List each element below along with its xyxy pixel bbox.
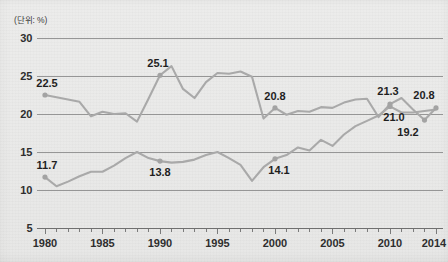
point-label-20-8-2014: 20.8: [413, 89, 434, 101]
line-chart-plot: 30252015105 1980198519901995200020052010…: [0, 0, 448, 262]
point-label-11-7-1980: 11.7: [37, 159, 58, 171]
x-tick-label-1990: 1990: [148, 237, 172, 249]
point-label-20-8-2000: 20.8: [264, 90, 285, 102]
point-label-13-8-1990: 13.8: [149, 166, 170, 178]
x-tick-label-1995: 1995: [205, 237, 229, 249]
x-tick-label-2005: 2005: [320, 237, 344, 249]
x-axis-tick-labels: 19801985199019952000200520102014: [33, 237, 447, 249]
point-label-21-3-2010: 21.3: [377, 85, 398, 97]
marker-lower-series-2000: [272, 156, 277, 161]
point-label-22-5-1980: 22.5: [36, 77, 57, 89]
chart-screenshot: (단위: %) 30252015105 19801985199019952000…: [0, 0, 448, 262]
marker-upper-series-2013: [422, 117, 427, 122]
y-tick-label-20: 20: [20, 108, 32, 120]
marker-upper-series-2014: [433, 105, 438, 110]
marker-lower-series-2010: [387, 104, 392, 109]
marker-lower-series-1990: [157, 159, 162, 164]
x-tick-label-2000: 2000: [263, 237, 287, 249]
x-tick-label-2010: 2010: [378, 237, 402, 249]
x-tick-label-1985: 1985: [90, 237, 114, 249]
series-line-lower-series: [45, 106, 436, 186]
x-tick-label-1980: 1980: [33, 237, 57, 249]
y-tick-label-5: 5: [26, 222, 32, 234]
point-label-21-0-2010: 21.0: [383, 111, 404, 123]
point-label-14-1-2000: 14.1: [268, 164, 289, 176]
marker-upper-series-2000: [272, 105, 277, 110]
y-tick-label-25: 25: [20, 70, 32, 82]
marker-upper-series-1980: [42, 92, 47, 97]
y-tick-label-30: 30: [20, 32, 32, 44]
x-axis: [37, 228, 444, 234]
marker-upper-series-1990: [157, 73, 162, 78]
marker-lower-series-1980: [42, 174, 47, 179]
point-label-25-1-1990: 25.1: [147, 57, 168, 69]
y-tick-label-10: 10: [20, 184, 32, 196]
y-axis-tick-labels: 30252015105: [20, 32, 32, 234]
x-tick-label-2014: 2014: [422, 237, 447, 249]
y-tick-label-15: 15: [20, 146, 32, 158]
point-label-19-2-2013: 19.2: [397, 126, 418, 138]
